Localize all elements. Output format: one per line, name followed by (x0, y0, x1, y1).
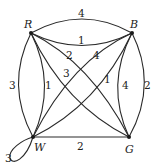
vertex-W (31, 135, 35, 139)
edge-label-B-G-2: 2 (144, 79, 151, 91)
edge-label-R-W-3: 3 (9, 79, 16, 91)
edge-label-B-G-4: 4 (122, 79, 129, 91)
edge-R-W-3 (18, 33, 33, 137)
edge-label-R-G-3: 3 (63, 67, 70, 79)
edge-label-W-G-2: 2 (77, 140, 84, 152)
edge-label-R-B-4: 4 (78, 7, 85, 19)
vertex-label-R: R (23, 18, 32, 31)
vertex-label-W: W (34, 141, 47, 154)
edge-B-G-2 (129, 33, 144, 137)
edge-label-R-G-2: 2 (66, 49, 73, 61)
edge-label-W-W-3: 3 (5, 152, 12, 164)
edge-label-B-W-1: 1 (104, 73, 111, 85)
edge-label-B-W-4: 4 (93, 49, 100, 61)
vertex-R (29, 31, 33, 35)
edge-R-B-4 (31, 19, 132, 33)
edge-R-W-1 (31, 33, 45, 137)
edge-W-W-loop-3 (10, 137, 33, 161)
vertex-B (130, 31, 134, 35)
edge-label-R-B-1: 1 (78, 34, 85, 46)
vertex-label-G: G (125, 143, 134, 156)
vertex-G (127, 135, 131, 139)
edge-label-R-W-1: 1 (45, 79, 52, 91)
multigraph-diagram: R B W G 4 1 2 4 3 1 2 2 3 4 1 3 (0, 0, 157, 168)
vertex-label-B: B (129, 18, 138, 31)
